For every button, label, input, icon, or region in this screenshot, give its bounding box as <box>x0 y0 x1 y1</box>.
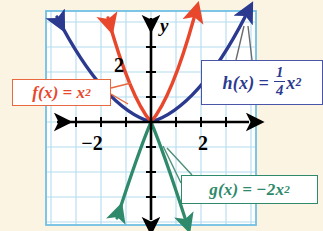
x-tick-label-2: 2 <box>198 132 208 154</box>
callout-f-rhs: x <box>76 84 85 101</box>
callout-h-equation: h(x) = 1 4 x2 <box>201 60 323 105</box>
callout-h-equals: = <box>258 74 268 92</box>
x-tick-label-neg2: −2 <box>81 132 102 154</box>
callout-h-lhs: h(x) <box>223 74 255 92</box>
y-tick-label-2: 2 <box>114 54 124 76</box>
callout-h-exponent: 2 <box>295 77 301 89</box>
callout-g-rhs: −2x <box>256 181 284 198</box>
callout-h-fraction: 1 4 <box>274 65 285 98</box>
callout-h-denominator: 4 <box>274 81 285 98</box>
callout-f-lhs: f(x) <box>32 84 58 101</box>
callout-f-equals: = <box>63 84 73 101</box>
parabola-comparison-figure: y 2 −2 2 f(x) = x2 h(x) = 1 4 x2 g(x) = … <box>0 0 323 231</box>
callout-g-lhs: g(x) <box>209 181 238 198</box>
callout-h-numerator: 1 <box>274 65 285 81</box>
callout-g-exponent: 2 <box>284 184 290 195</box>
callout-g-equals: = <box>242 181 252 198</box>
y-axis-label: y <box>158 15 169 36</box>
callout-f-equation: f(x) = x2 <box>12 79 111 106</box>
callout-g-equation: g(x) = −2x2 <box>181 175 318 204</box>
callout-f-exponent: 2 <box>85 87 91 98</box>
